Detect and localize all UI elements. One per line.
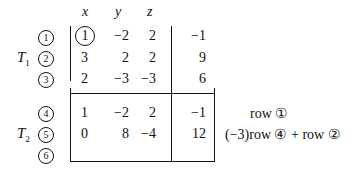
rhs-cell: −1 (180, 28, 206, 44)
cell: 2 (130, 105, 156, 121)
header-y: y (115, 4, 121, 20)
cell: −3 (103, 71, 129, 87)
row-index-4: 4 (38, 106, 54, 122)
bottom-border (70, 161, 215, 162)
rhs-cell: 6 (180, 71, 206, 87)
cell: 2 (130, 50, 156, 66)
cell: −4 (130, 126, 156, 142)
cell: −2 (103, 105, 129, 121)
cell: 1 (81, 105, 88, 121)
cell: 8 (103, 126, 129, 142)
tableau-label-t2: T2 (17, 125, 30, 144)
tableau-label-t1: T1 (17, 49, 30, 68)
row-index-2: 2 (38, 51, 54, 67)
rhs-cell: 12 (180, 126, 206, 142)
left-border-lower (70, 88, 71, 162)
left-border (70, 26, 71, 81)
rhs-cell: −1 (180, 105, 206, 121)
header-x: x (82, 4, 88, 20)
cell: −3 (130, 71, 156, 87)
cell: 0 (81, 126, 88, 142)
pivot-cell: 1 (75, 26, 95, 46)
header-z: z (147, 4, 152, 20)
row-index-5: 5 (38, 127, 54, 143)
row-index-6: 6 (38, 148, 54, 164)
tableau-divider (70, 93, 215, 94)
cell: 2 (103, 50, 129, 66)
cell: 2 (81, 71, 88, 87)
cell: 3 (81, 50, 88, 66)
row-index-3: 3 (38, 72, 54, 88)
rhs-cell: 9 (180, 50, 206, 66)
cell: 2 (130, 28, 156, 44)
row-note: (−3)row ④ + row ② (225, 126, 341, 143)
row-index-1: 1 (38, 30, 54, 46)
cell: −2 (103, 28, 129, 44)
right-border (214, 88, 215, 162)
row-note: row ① (250, 105, 288, 122)
